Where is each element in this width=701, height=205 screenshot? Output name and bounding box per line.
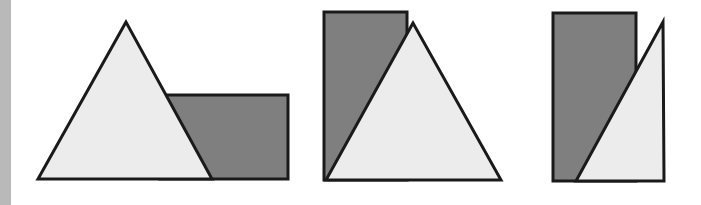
shapes-diagram xyxy=(0,0,701,205)
figure-2 xyxy=(324,12,501,180)
figure-1 xyxy=(38,22,288,179)
figure-3 xyxy=(553,13,664,181)
